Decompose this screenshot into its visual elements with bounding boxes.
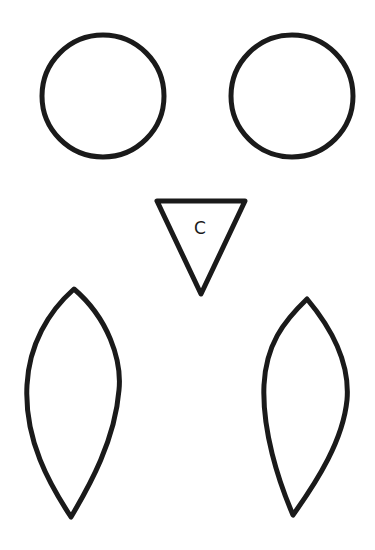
right-leaf (264, 299, 348, 515)
right-circle (231, 35, 353, 157)
owl-shapes-diagram: C (0, 0, 375, 550)
triangle (157, 201, 245, 294)
left-leaf (27, 289, 120, 517)
left-circle (42, 35, 164, 157)
triangle-label: C (194, 218, 206, 238)
